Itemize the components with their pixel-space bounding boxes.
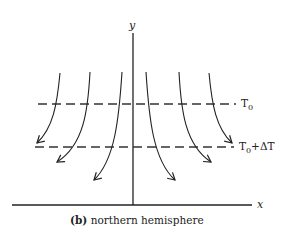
x-axis-label: x bbox=[257, 198, 264, 211]
flow-arrow bbox=[209, 73, 232, 143]
y-axis-label: y bbox=[128, 19, 136, 32]
caption-tag: (b) bbox=[70, 214, 87, 226]
flow-arrow bbox=[146, 72, 175, 180]
flow-arrow bbox=[94, 72, 122, 180]
diagram-canvas: y x T0 T0+ΔT bbox=[0, 0, 286, 234]
figure-caption: (b) northern hemisphere bbox=[0, 214, 286, 226]
isotherm-t0-label: T0 bbox=[241, 97, 253, 112]
flow-arrow bbox=[57, 72, 90, 162]
flow-arrow bbox=[179, 72, 211, 162]
flow-arrow bbox=[37, 73, 60, 143]
isotherm-t0-delta-label: T0+ΔT bbox=[239, 140, 275, 155]
caption-text: northern hemisphere bbox=[91, 214, 204, 226]
